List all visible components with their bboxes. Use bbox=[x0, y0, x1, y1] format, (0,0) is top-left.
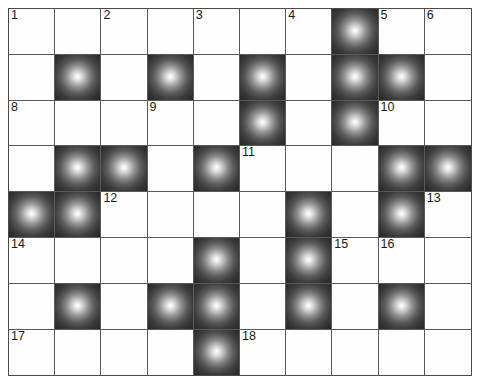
block-cell bbox=[379, 146, 425, 192]
clue-number: 5 bbox=[381, 9, 388, 22]
block-cell bbox=[148, 55, 194, 101]
letter-cell[interactable] bbox=[148, 330, 194, 376]
block-cell bbox=[55, 55, 101, 101]
letter-cell[interactable] bbox=[55, 101, 101, 147]
letter-cell[interactable]: 4 bbox=[286, 9, 332, 55]
clue-number: 8 bbox=[11, 101, 18, 114]
letter-cell[interactable] bbox=[9, 284, 55, 330]
letter-cell[interactable] bbox=[55, 238, 101, 284]
block-cell bbox=[55, 192, 101, 238]
letter-cell[interactable]: 2 bbox=[101, 9, 147, 55]
clue-number: 4 bbox=[288, 9, 295, 22]
letter-cell[interactable] bbox=[286, 101, 332, 147]
letter-cell[interactable]: 12 bbox=[101, 192, 147, 238]
letter-cell[interactable] bbox=[332, 330, 378, 376]
letter-cell[interactable]: 13 bbox=[425, 192, 471, 238]
clue-number: 1 bbox=[11, 9, 18, 22]
letter-cell[interactable] bbox=[194, 101, 240, 147]
block-cell bbox=[55, 146, 101, 192]
letter-cell[interactable]: 18 bbox=[240, 330, 286, 376]
block-cell bbox=[194, 146, 240, 192]
letter-cell[interactable]: 14 bbox=[9, 238, 55, 284]
letter-cell[interactable] bbox=[240, 238, 286, 284]
letter-cell[interactable]: 10 bbox=[379, 101, 425, 147]
block-cell bbox=[9, 192, 55, 238]
letter-cell[interactable] bbox=[55, 9, 101, 55]
letter-cell[interactable] bbox=[425, 330, 471, 376]
block-cell bbox=[286, 238, 332, 284]
letter-cell[interactable] bbox=[148, 9, 194, 55]
block-cell bbox=[332, 9, 378, 55]
block-cell bbox=[379, 192, 425, 238]
letter-cell[interactable] bbox=[286, 55, 332, 101]
block-cell bbox=[425, 146, 471, 192]
letter-cell[interactable]: 11 bbox=[240, 146, 286, 192]
block-cell bbox=[55, 284, 101, 330]
clue-number: 18 bbox=[242, 330, 256, 343]
block-cell bbox=[194, 330, 240, 376]
clue-number: 16 bbox=[381, 238, 395, 251]
letter-cell[interactable] bbox=[101, 55, 147, 101]
letter-cell[interactable] bbox=[148, 238, 194, 284]
letter-cell[interactable] bbox=[332, 192, 378, 238]
letter-cell[interactable]: 9 bbox=[148, 101, 194, 147]
block-cell bbox=[194, 284, 240, 330]
letter-cell[interactable] bbox=[55, 330, 101, 376]
clue-number: 12 bbox=[103, 192, 117, 205]
letter-cell[interactable]: 16 bbox=[379, 238, 425, 284]
clue-number: 10 bbox=[381, 101, 395, 114]
block-cell bbox=[286, 192, 332, 238]
letter-cell[interactable]: 15 bbox=[332, 238, 378, 284]
letter-cell[interactable] bbox=[9, 55, 55, 101]
letter-cell[interactable] bbox=[425, 238, 471, 284]
letter-cell[interactable]: 6 bbox=[425, 9, 471, 55]
letter-cell[interactable] bbox=[194, 192, 240, 238]
letter-cell[interactable] bbox=[425, 55, 471, 101]
letter-cell[interactable] bbox=[240, 284, 286, 330]
letter-cell[interactable] bbox=[148, 146, 194, 192]
letter-cell[interactable] bbox=[101, 284, 147, 330]
clue-number: 9 bbox=[150, 101, 157, 114]
block-cell bbox=[101, 146, 147, 192]
letter-cell[interactable]: 1 bbox=[9, 9, 55, 55]
letter-cell[interactable] bbox=[379, 330, 425, 376]
letter-cell[interactable]: 5 bbox=[379, 9, 425, 55]
block-cell bbox=[379, 55, 425, 101]
block-cell bbox=[240, 55, 286, 101]
clue-number: 15 bbox=[334, 238, 348, 251]
letter-cell[interactable] bbox=[332, 146, 378, 192]
block-cell bbox=[286, 284, 332, 330]
letter-cell[interactable] bbox=[101, 238, 147, 284]
letter-cell[interactable] bbox=[286, 330, 332, 376]
clue-number: 2 bbox=[103, 9, 110, 22]
letter-cell[interactable] bbox=[240, 9, 286, 55]
block-cell bbox=[240, 101, 286, 147]
clue-number: 14 bbox=[11, 238, 25, 251]
letter-cell[interactable] bbox=[101, 101, 147, 147]
clue-number: 13 bbox=[427, 192, 441, 205]
letter-cell[interactable] bbox=[9, 146, 55, 192]
letter-cell[interactable] bbox=[148, 192, 194, 238]
clue-number: 6 bbox=[427, 9, 434, 22]
block-cell bbox=[332, 55, 378, 101]
clue-number: 3 bbox=[196, 9, 203, 22]
letter-cell[interactable] bbox=[240, 192, 286, 238]
letter-cell[interactable] bbox=[286, 146, 332, 192]
letter-cell[interactable]: 17 bbox=[9, 330, 55, 376]
letter-cell[interactable] bbox=[332, 284, 378, 330]
block-cell bbox=[379, 284, 425, 330]
letter-cell[interactable] bbox=[194, 55, 240, 101]
block-cell bbox=[332, 101, 378, 147]
clue-number: 17 bbox=[11, 330, 25, 343]
letter-cell[interactable]: 3 bbox=[194, 9, 240, 55]
letter-cell[interactable] bbox=[425, 284, 471, 330]
clue-number: 11 bbox=[242, 146, 255, 159]
letter-cell[interactable] bbox=[425, 101, 471, 147]
crossword-grid[interactable]: 12345689101112131415161718 bbox=[8, 8, 472, 376]
block-cell bbox=[148, 284, 194, 330]
letter-cell[interactable]: 8 bbox=[9, 101, 55, 147]
block-cell bbox=[194, 238, 240, 284]
letter-cell[interactable] bbox=[101, 330, 147, 376]
